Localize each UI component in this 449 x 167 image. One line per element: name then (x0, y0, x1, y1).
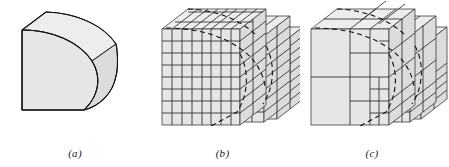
octree-step-1-main (311, 1, 415, 125)
caption-b: (b) (145, 147, 300, 159)
voxel-step-1-main (162, 9, 266, 125)
panel-a-drawing (0, 0, 150, 138)
caption-a: (a) (0, 147, 150, 159)
panel-c: (c) (295, 0, 449, 167)
panel-a: (a) (0, 0, 150, 167)
panel-b: (b) (145, 0, 300, 167)
voxel-mesh-uniform (162, 9, 300, 126)
figure-root: (a) (0, 0, 449, 167)
caption-c: (c) (295, 147, 449, 159)
octree-mesh-adaptive (311, 1, 447, 126)
panel-b-drawing (145, 0, 300, 138)
panel-c-drawing (295, 0, 449, 138)
